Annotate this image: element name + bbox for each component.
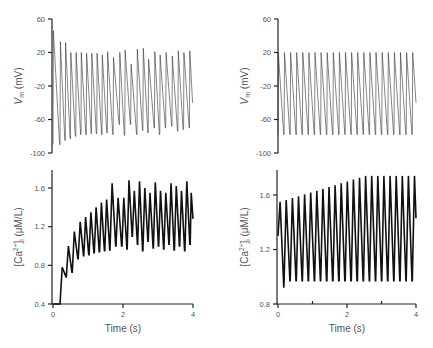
y-axis: 6020-20-60-100 bbox=[256, 15, 278, 158]
y-axis-title: Vm (mV) bbox=[13, 68, 25, 105]
x-tick-label: 0 bbox=[51, 310, 55, 319]
calcium-trace bbox=[278, 176, 416, 288]
figure: 6020-20-60-100 Vm (mV) 1.61.20.80.4 024 … bbox=[0, 0, 433, 348]
panel-bottom-left-calcium-chart: 1.61.20.80.4 024 [Ca2+]i (μM/L) Time (s) bbox=[12, 170, 195, 334]
calcium-trace bbox=[53, 180, 193, 304]
x-tick-label: 0 bbox=[276, 310, 280, 319]
y-tick-label: -100 bbox=[256, 149, 271, 158]
vm-trace bbox=[53, 31, 193, 145]
x-axis-title: Time (s) bbox=[105, 323, 141, 334]
y-axis-title: [Ca2+]i (μM/L) bbox=[12, 207, 25, 266]
y-tick-label: 1.2 bbox=[260, 245, 270, 254]
y-tick-label: 0.8 bbox=[260, 300, 270, 309]
y-tick-label: 1.6 bbox=[35, 184, 45, 193]
y-axis: 1.61.20.80.4 bbox=[35, 170, 52, 309]
y-axis: 6020-20-60-100 bbox=[30, 15, 52, 158]
y-tick-label: 60 bbox=[37, 15, 45, 24]
x-tick-label: 2 bbox=[345, 310, 349, 319]
x-axis: 024 bbox=[51, 304, 195, 319]
y-tick-label: 60 bbox=[263, 15, 271, 24]
y-tick-label: -20 bbox=[260, 82, 271, 91]
x-axis-title: Time (s) bbox=[329, 323, 365, 334]
y-tick-label: 20 bbox=[263, 48, 271, 57]
y-tick-label: 0.4 bbox=[35, 300, 45, 309]
x-tick-label: 2 bbox=[121, 310, 125, 319]
y-tick-label: 1.2 bbox=[35, 222, 45, 231]
y-axis: 1.61.20.8 bbox=[260, 170, 277, 309]
y-tick-label: 0.8 bbox=[35, 261, 45, 270]
panel-top-left-vm-chart: 6020-20-60-100 Vm (mV) bbox=[13, 15, 193, 158]
panel-bottom-right-calcium-chart: 1.61.20.8 024 [Ca2+]i (μM/L) Time (s) bbox=[238, 170, 418, 334]
x-tick-label: 4 bbox=[191, 310, 195, 319]
y-tick-label: -60 bbox=[34, 115, 45, 124]
y-axis-title: Vm (mV) bbox=[239, 68, 251, 105]
y-tick-label: -100 bbox=[30, 149, 45, 158]
panel-top-right-vm-chart: 6020-20-60-100 Vm (mV) bbox=[239, 15, 416, 158]
y-axis-title: [Ca2+]i (μM/L) bbox=[238, 207, 251, 266]
y-tick-label: -20 bbox=[34, 82, 45, 91]
y-tick-label: -60 bbox=[260, 115, 271, 124]
y-tick-label: 1.6 bbox=[260, 191, 270, 200]
x-axis: 024 bbox=[276, 301, 418, 319]
vm-trace bbox=[278, 53, 416, 135]
y-tick-label: 20 bbox=[37, 48, 45, 57]
x-tick-label: 4 bbox=[414, 310, 418, 319]
